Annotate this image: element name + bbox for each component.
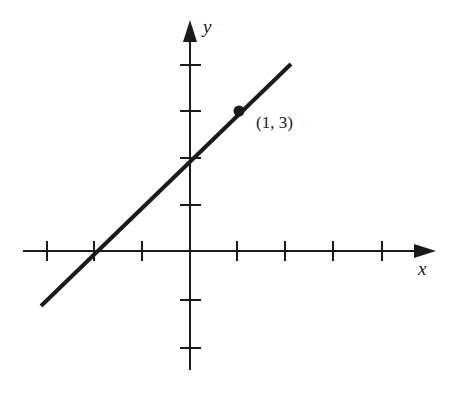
point-label: (1, 3) (256, 113, 293, 133)
x-axis-arrow-icon (414, 244, 436, 258)
graph-line (41, 64, 291, 306)
x-axis-label: x (418, 258, 426, 280)
y-axis-label: y (203, 16, 211, 38)
point-marker (234, 106, 245, 117)
y-axis-arrow-icon (183, 20, 197, 42)
coordinate-plane (0, 0, 458, 393)
